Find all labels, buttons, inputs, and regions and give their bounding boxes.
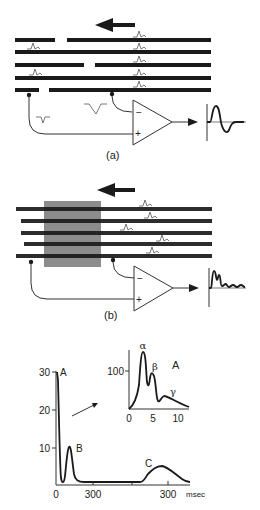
amp-minus-label: − [136,107,142,118]
output-arrow-icon [188,118,198,126]
amp-minus-label: − [137,273,143,284]
fiber-1a [15,38,55,42]
amp-plus-label: + [135,128,141,139]
fiber-2 [15,50,211,54]
fiber-1b [67,38,211,42]
inset-y-tick-100: 100 [107,366,124,377]
fiber-3a [15,63,84,67]
recording-electrode-minus [111,258,115,262]
zoom-pointer-arrow [72,404,96,416]
fiber-1 [16,207,212,211]
inset-trace [129,352,189,409]
fiber-5a [15,88,39,92]
recording-electrode-minus [110,92,114,96]
wire-minus [112,96,132,112]
propagation-arrow-icon [95,18,135,32]
peak-label-b: B [76,443,83,454]
inset-plot-peak-a: 100 0 5 10 α β γ A [107,340,189,424]
nerve-fibers [15,38,211,92]
fiber-3 [21,231,212,235]
inset-title: A [172,359,180,371]
output-arrow-icon [189,284,199,292]
amp-plus-label: + [136,294,142,305]
output-trace-compound [209,268,246,307]
peak-label-c: C [145,458,152,469]
fiber-4 [24,242,212,246]
potential-glyph-small [36,117,50,123]
x-tick-300a: 300 [85,489,102,500]
compound-potential-plot: 30 20 10 0 300 300 msec A B C [39,367,205,500]
compound-action-potential-diagram: − + (a) [0,0,260,510]
inset-x-tick-0: 0 [126,413,132,424]
panel-a-label: (a) [106,149,119,161]
x-tick-300b: 300 [160,489,177,500]
inset-peak-gamma: γ [170,386,176,397]
y-tick-30: 30 [39,367,51,378]
panel-b: − + (b) [16,183,246,321]
inset-x-tick-5: 5 [150,413,156,424]
wire-plus [29,96,133,134]
inset-peak-alpha: α [140,340,147,351]
peak-label-a: A [60,367,67,378]
inset-peak-beta: β [152,361,158,372]
x-unit: msec [186,490,205,499]
fiber-5b [49,88,211,92]
fiber-2 [21,219,212,223]
wire-plus [31,263,134,299]
output-trace-biphasic [207,104,246,141]
propagation-arrow-icon [97,183,135,197]
wire-minus [113,262,134,278]
panel-b-label: (b) [104,309,117,321]
x-tick-0: 0 [53,489,59,500]
fiber-4 [15,76,211,80]
panel-a: − + (a) [15,18,246,161]
inset-x-tick-10: 10 [172,413,184,424]
y-tick-20: 20 [39,405,51,416]
fiber-5 [16,254,212,258]
fiber-3b [95,63,211,67]
y-tick-10: 10 [39,443,51,454]
potential-glyph-large [84,104,107,114]
